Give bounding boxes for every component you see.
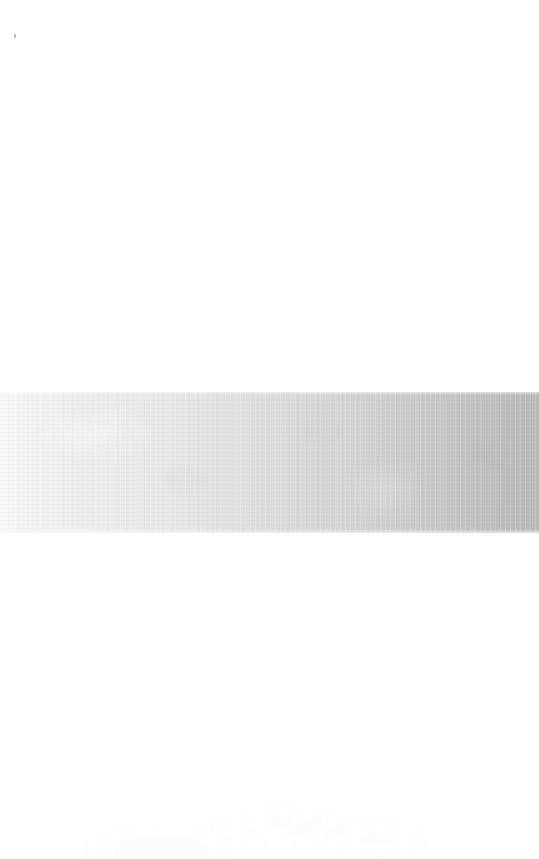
lower-mottle-region — [0, 689, 539, 859]
band-blotches — [0, 392, 539, 533]
scanned-page — [0, 0, 539, 859]
band-vertical-striations — [0, 392, 539, 533]
band-top-edge — [0, 392, 539, 395]
band-bottom-edge — [0, 529, 539, 533]
upper-mottle-region — [0, 0, 539, 200]
horizontal-gray-band — [0, 392, 539, 533]
dust-speck-artifact — [14, 34, 16, 38]
band-horizontal-grain — [0, 392, 539, 533]
